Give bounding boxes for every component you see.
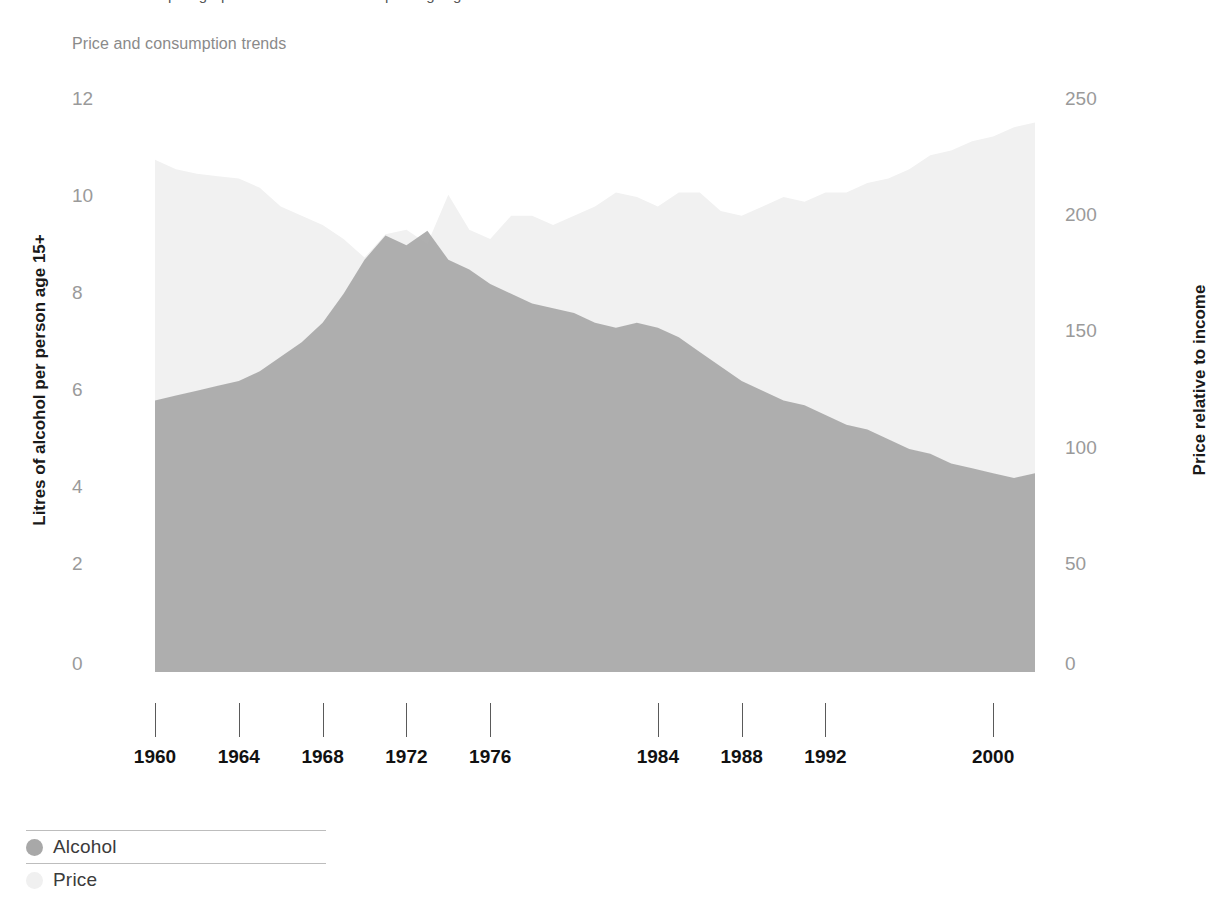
legend-label-alcohol: Alcohol (53, 836, 117, 858)
x-tick-label-1972: 1972 (385, 746, 427, 768)
x-tick-mark-1968 (323, 703, 324, 737)
x-tick-mark-1976 (490, 703, 491, 737)
x-tick-label-1976: 1976 (469, 746, 511, 768)
y-right-tick-250: 250 (1065, 88, 1097, 110)
x-tick-mark-1992 (825, 703, 826, 737)
x-tick-label-1988: 1988 (721, 746, 763, 768)
x-tick-mark-2000 (993, 703, 994, 737)
y-left-tick-4: 4 (72, 476, 83, 498)
x-tick-mark-1984 (658, 703, 659, 737)
x-tick-label-2000: 2000 (972, 746, 1014, 768)
x-tick-mark-1960 (155, 703, 156, 737)
y-right-tick-150: 150 (1065, 320, 1097, 342)
x-tick-label-1992: 1992 (804, 746, 846, 768)
y-left-tick-0: 0 (72, 653, 83, 675)
x-tick-label-1968: 1968 (301, 746, 343, 768)
y-left-tick-6: 6 (72, 379, 83, 401)
legend-item-price[interactable]: Price (26, 864, 326, 896)
y-left-tick-8: 8 (72, 282, 83, 304)
y-left-tick-12: 12 (72, 88, 93, 110)
chart-subtitle: Price and consumption trends (72, 35, 286, 53)
plot-area (155, 90, 1035, 672)
y-axis-left-title: Litres of alcohol per person age 15+ (30, 170, 50, 590)
chart-legend: Alcohol Price (26, 830, 326, 896)
y-right-tick-50: 50 (1065, 553, 1086, 575)
legend-label-price: Price (53, 869, 97, 891)
x-tick-mark-1964 (239, 703, 240, 737)
x-tick-mark-1988 (742, 703, 743, 737)
y-right-tick-200: 200 (1065, 204, 1097, 226)
x-tick-label-1960: 1960 (134, 746, 176, 768)
x-tick-mark-1972 (406, 703, 407, 737)
x-tick-label-1964: 1964 (218, 746, 260, 768)
y-right-tick-100: 100 (1065, 437, 1097, 459)
area-chart-svg (155, 90, 1035, 672)
y-left-tick-2: 2 (72, 553, 83, 575)
y-axis-right-title: Price relative to income (1190, 170, 1210, 590)
legend-item-alcohol[interactable]: Alcohol (26, 831, 326, 863)
legend-swatch-alcohol-icon (26, 839, 43, 856)
y-right-tick-0: 0 (1065, 653, 1076, 675)
clipped-top-text: a paragraph continues above the plotting… (0, 0, 1193, 6)
y-left-tick-10: 10 (72, 185, 93, 207)
legend-swatch-price-icon (26, 872, 43, 889)
x-tick-label-1984: 1984 (637, 746, 679, 768)
